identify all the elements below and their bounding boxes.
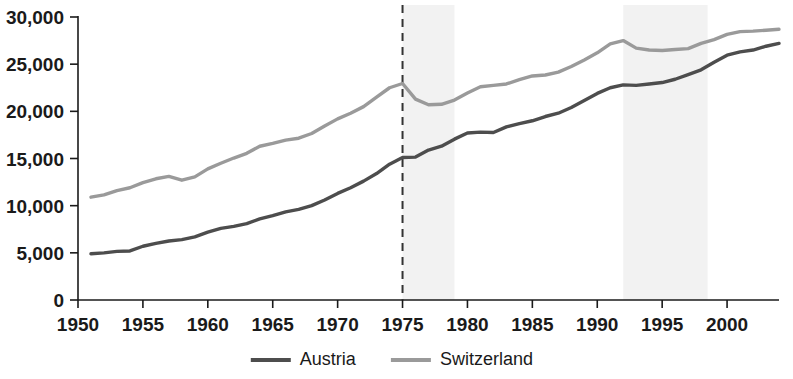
chart-container: 05,00010,00015,00020,00025,00030,000 195… bbox=[0, 0, 793, 379]
x-tick-label: 1955 bbox=[122, 314, 165, 335]
x-tick-label: 1995 bbox=[641, 314, 684, 335]
y-tick-label: 20,000 bbox=[6, 101, 64, 122]
x-tick-label: 1950 bbox=[57, 314, 99, 335]
y-tick-label: 0 bbox=[53, 290, 64, 311]
recession-band-1 bbox=[403, 5, 455, 300]
x-tick-label: 1960 bbox=[187, 314, 229, 335]
y-axis-ticks bbox=[70, 17, 78, 300]
line-chart: 05,00010,00015,00020,00025,00030,000 195… bbox=[0, 0, 793, 379]
y-tick-label: 10,000 bbox=[6, 196, 64, 217]
legend-label-austria: Austria bbox=[300, 349, 357, 369]
y-tick-label: 15,000 bbox=[6, 149, 64, 170]
x-tick-label: 1990 bbox=[576, 314, 618, 335]
chart-legend: AustriaSwitzerland bbox=[251, 349, 533, 369]
y-tick-label: 5,000 bbox=[16, 243, 64, 264]
x-tick-label: 1985 bbox=[511, 314, 554, 335]
legend-label-switzerland: Switzerland bbox=[440, 349, 533, 369]
x-tick-label: 1970 bbox=[316, 314, 358, 335]
x-axis-ticks bbox=[78, 300, 727, 308]
x-tick-label: 2000 bbox=[706, 314, 748, 335]
y-axis-tick-labels: 05,00010,00015,00020,00025,00030,000 bbox=[6, 7, 64, 311]
x-axis-tick-labels: 1950195519601965197019751980198519901995… bbox=[57, 314, 748, 335]
x-tick-label: 1980 bbox=[446, 314, 488, 335]
x-tick-label: 1975 bbox=[381, 314, 424, 335]
y-tick-label: 25,000 bbox=[6, 54, 64, 75]
y-tick-label: 30,000 bbox=[6, 7, 64, 28]
x-tick-label: 1965 bbox=[252, 314, 295, 335]
